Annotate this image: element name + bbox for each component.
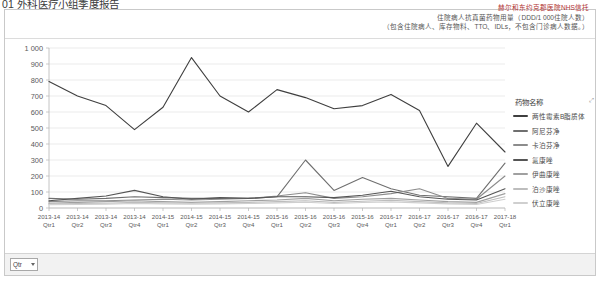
legend-swatch-icon: [513, 159, 528, 161]
x-axis-label-quarter: Qtr4: [129, 221, 141, 228]
y-axis-label: 200: [31, 172, 43, 181]
legend-item-label: 伊曲康唑: [532, 169, 560, 179]
qtr-filter-label: Qtr: [13, 261, 22, 268]
legend-swatch-icon: [513, 188, 528, 190]
chart-legend: 药物名称 ⤢ 两性霉素B脂质体阿尼芬净卡泊芬净氟康唑伊曲康唑泊沙康唑伏立康唑: [509, 95, 597, 211]
x-axis-label-quarter: Qtr3: [214, 221, 226, 228]
y-axis-label: 300: [31, 156, 43, 165]
x-axis-label-quarter: Qtr1: [271, 221, 283, 228]
y-axis-label: 700: [31, 92, 43, 101]
x-axis-label-quarter: Qtr1: [157, 221, 169, 228]
legend-header[interactable]: 药物名称 ⤢: [509, 95, 597, 109]
legend-swatch-icon: [513, 144, 528, 146]
report-page: 01 外科医疗小组季度报告 赫尔和东约克郡医院NHS信托 住院病人抗真菌药物用量…: [0, 0, 600, 283]
x-axis-label-quarter: Qtr3: [328, 221, 340, 228]
legend-swatch-icon: [513, 202, 528, 204]
legend-item[interactable]: 伊曲康唑: [509, 167, 597, 182]
x-axis-label-quarter: Qtr2: [300, 221, 312, 228]
legend-swatch-icon: [513, 115, 528, 117]
legend-item-label: 伏立康唑: [532, 198, 560, 208]
y-axis-label: 800: [31, 76, 43, 85]
legend-item[interactable]: 氟康唑: [509, 153, 597, 168]
header-line-3: （包含住院病人、库存物料、TTO、IDLs，不包含门诊病人数据。）: [383, 22, 589, 32]
legend-item[interactable]: 两性霉素B脂质体: [509, 109, 597, 124]
x-axis-label-year: 2015-16: [294, 213, 317, 220]
x-axis-label-year: 2014-15: [180, 213, 203, 220]
x-axis-label-year: 2013-14: [38, 213, 61, 220]
x-axis-label-year: 2015-16: [323, 213, 346, 220]
x-axis-label-year: 2014-15: [152, 213, 175, 220]
legend-swatch-icon: [513, 173, 528, 175]
qtr-filter-dropdown[interactable]: Qtr: [10, 258, 38, 271]
x-axis-label-year: 2015-16: [351, 213, 374, 220]
expand-icon[interactable]: ⤢: [589, 97, 594, 104]
legend-item[interactable]: 阿尼芬净: [509, 124, 597, 139]
x-axis-label-quarter: Qtr1: [385, 221, 397, 228]
y-axis-label: 500: [31, 124, 43, 133]
x-axis-label-year: 2016-17: [380, 213, 403, 220]
legend-item-list: 两性霉素B脂质体阿尼芬净卡泊芬净氟康唑伊曲康唑泊沙康唑伏立康唑: [509, 109, 597, 211]
y-axis-label: 400: [31, 140, 43, 149]
report-frame: 赫尔和东约克郡医院NHS信托 住院病人抗真菌药物用量（DDD/1 000住院人数…: [4, 9, 596, 276]
x-axis-label-quarter: Qtr2: [186, 221, 198, 228]
x-axis-label-quarter: Qtr4: [471, 221, 483, 228]
x-axis-label-quarter: Qtr2: [72, 221, 84, 228]
legend-item-label: 卡泊芬净: [532, 140, 560, 150]
chevron-down-icon[interactable]: [31, 263, 35, 266]
y-axis-label: 600: [31, 108, 43, 117]
x-axis-label-year: 2014-15: [237, 213, 260, 220]
x-axis-label-quarter: Qtr2: [414, 221, 426, 228]
x-axis-label-quarter: Qtr1: [499, 221, 511, 228]
y-axis-label: 1 000: [25, 44, 44, 53]
report-footer: Qtr: [5, 253, 595, 275]
legend-swatch-icon: [513, 130, 528, 132]
x-axis-label-year: 2013-14: [123, 213, 146, 220]
x-axis-label-year: 2013-14: [66, 213, 89, 220]
y-axis-label: 0: [39, 204, 43, 213]
x-axis-label-year: 2014-15: [209, 213, 232, 220]
legend-item-label: 阿尼芬净: [532, 126, 560, 136]
x-axis-label-year: 2013-14: [95, 213, 118, 220]
legend-item[interactable]: 卡泊芬净: [509, 138, 597, 153]
report-header: 赫尔和东约克郡医院NHS信托 住院病人抗真菌药物用量（DDD/1 000住院人数…: [383, 3, 589, 32]
legend-item-label: 泊沙康唑: [532, 184, 560, 194]
y-axis-label: 100: [31, 188, 43, 197]
x-axis-label-quarter: Qtr3: [442, 221, 454, 228]
x-axis-label-year: 2016-17: [408, 213, 431, 220]
x-axis-label-year: 2016-17: [437, 213, 460, 220]
header-line-1: 赫尔和东约克郡医院NHS信托: [383, 3, 589, 13]
header-divider: [5, 38, 595, 39]
header-line-2: 住院病人抗真菌药物用量（DDD/1 000住院人数）: [383, 13, 589, 23]
legend-item-label: 两性霉素B脂质体: [532, 111, 585, 121]
legend-title: 药物名称: [515, 96, 543, 107]
x-axis-label-year: 2017-18: [494, 213, 517, 220]
x-axis-label-quarter: Qtr4: [357, 221, 369, 228]
legend-item[interactable]: 泊沙康唑: [509, 182, 597, 197]
x-axis-label-year: 2015-16: [266, 213, 289, 220]
y-axis-label: 900: [31, 60, 43, 69]
x-axis-label-year: 2016-17: [465, 213, 488, 220]
x-axis-label-quarter: Qtr3: [100, 221, 112, 228]
x-axis-label-quarter: Qtr1: [43, 221, 55, 228]
legend-item-label: 氟康唑: [532, 155, 553, 165]
x-axis-label-quarter: Qtr4: [243, 221, 255, 228]
legend-item[interactable]: 伏立康唑: [509, 196, 597, 211]
